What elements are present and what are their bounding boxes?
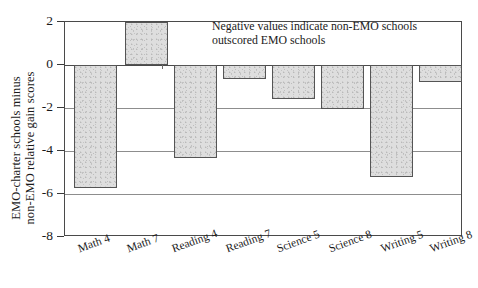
plot-area	[64, 21, 462, 236]
bar-science-5	[272, 65, 315, 99]
bar-reading-7	[223, 65, 266, 79]
y-tick-label-2: 2	[13, 13, 53, 29]
x-minor-tick-2	[162, 65, 163, 69]
chart-annotation-line-1: Negative values indicate non-EMO schools	[212, 19, 448, 33]
bar-chart: EMO-charter schools minus non-EMO relati…	[0, 0, 478, 288]
y-tick-mark-neg6	[57, 193, 64, 194]
y-tick-mark-2	[57, 21, 64, 22]
chart-annotation: Negative values indicate non-EMO schools…	[212, 17, 448, 48]
bar-science-8	[321, 65, 364, 109]
y-tick-mark-neg4	[57, 150, 64, 151]
bar-writing-5	[370, 65, 413, 177]
y-tick-label-neg4: -4	[13, 142, 53, 158]
y-tick-mark-neg2	[57, 107, 64, 108]
y-tick-label-neg8: -8	[13, 228, 53, 244]
y-tick-mark-neg8	[57, 236, 64, 237]
bar-math-4	[74, 65, 117, 188]
y-tick-label-0: 0	[13, 56, 53, 72]
bar-reading-4	[174, 65, 217, 158]
chart-annotation-line-2: outscored EMO schools	[212, 33, 448, 47]
bar-math-7	[125, 22, 168, 65]
y-tick-label-neg6: -6	[13, 185, 53, 201]
gridline-neg6	[65, 194, 461, 195]
y-tick-label-neg2: -2	[13, 99, 53, 115]
bar-writing-8	[419, 65, 462, 82]
y-tick-mark-0	[57, 64, 64, 65]
